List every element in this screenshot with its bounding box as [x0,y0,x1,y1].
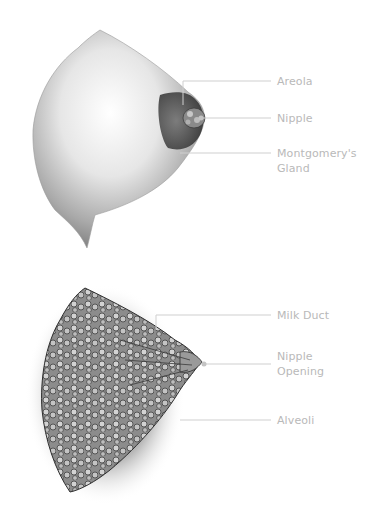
label-milk-duct: Milk Duct [277,308,329,323]
breast-anatomy-diagram: Areola Nipple Montgomery's Gland Milk Du… [0,0,379,523]
label-montgomerys-line1: Montgomery's [277,146,357,161]
label-nipple-opening-line2: Opening [277,364,324,379]
label-areola: Areola [277,74,313,89]
external-breast-drawing [33,30,205,248]
nipple-opening-marker-dot [202,362,207,367]
label-nipple-opening: Nipple Opening [277,349,324,379]
label-montgomerys-gland: Montgomery's Gland [277,146,357,176]
internal-breast-drawing [25,285,202,505]
illustration [0,0,379,523]
nipple-marker-dot [199,116,204,121]
label-montgomerys-line2: Gland [277,161,357,176]
label-nipple: Nipple [277,111,313,126]
label-nipple-opening-line1: Nipple [277,349,324,364]
label-alveoli: Alveoli [277,413,314,428]
